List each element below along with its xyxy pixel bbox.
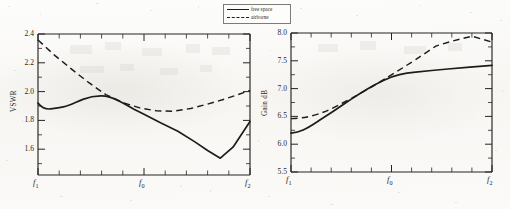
left-panel-series-airborne (38, 40, 250, 111)
right-panel-plot (291, 33, 492, 172)
legend-label-airborne: airborne (251, 13, 269, 22)
left-panel-y-ticks (38, 34, 250, 164)
right-panel-x-ticks (291, 33, 492, 172)
legend-swatch-solid-line (227, 9, 249, 10)
right-panel-y-ticks (291, 33, 492, 172)
left-panel-series-free-space (38, 96, 250, 158)
left-panel-plot (38, 34, 250, 175)
legend-entry-airborne: airborne (226, 14, 288, 22)
legend: free space airborne (223, 4, 291, 24)
figure-two-panel-chart (0, 0, 510, 209)
right-panel-axes-frame (291, 33, 492, 172)
legend-swatch-dashed-line (227, 17, 249, 18)
